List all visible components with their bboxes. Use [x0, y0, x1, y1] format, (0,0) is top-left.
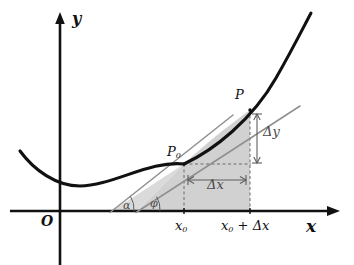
y-axis-arrow-icon [55, 12, 65, 24]
delta-y-measure [252, 114, 262, 163]
x-axis-arrow-icon [327, 206, 340, 216]
p-marker [248, 108, 251, 111]
alpha-angle-label: α [123, 200, 130, 211]
p0-label: P0 [167, 145, 181, 160]
origin-label: O [41, 214, 53, 228]
p0-marker [182, 162, 185, 165]
function-curve [20, 13, 311, 186]
p0-letter: P [167, 144, 176, 159]
x-axis-label: x [306, 218, 316, 235]
p0-subscript: 0 [176, 151, 181, 160]
y-axis [55, 12, 65, 265]
derivative-diagram: y x O P0 P Δx Δy α φ x0 x0 + Δx [0, 0, 354, 265]
x0-plus-dx-tick-label: x0 + Δx [221, 219, 269, 234]
x0-plus-dx-suffix: + Δx [233, 218, 269, 233]
x0-subscript: 0 [182, 225, 187, 234]
delta-y-label: Δy [263, 125, 280, 138]
delta-x-label: Δx [207, 178, 224, 191]
phi-angle-label: φ [150, 198, 158, 209]
y-axis-label: y [72, 11, 81, 27]
p-label: P [235, 88, 244, 101]
x0-tick-label: x0 [175, 219, 187, 234]
